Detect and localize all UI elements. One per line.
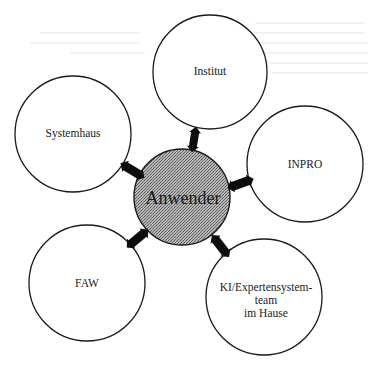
node-systemhaus: Systemhaus — [15, 76, 131, 192]
node-institut: Institut — [153, 15, 267, 129]
center-node-anwender: Anwender — [134, 149, 230, 245]
hub-spoke-diagram: Institut Systemhaus INPRO FAW KI/Experte… — [0, 0, 372, 370]
node-label-inpro: INPRO — [288, 158, 323, 170]
node-label-faw: FAW — [75, 277, 99, 289]
center-label: Anwender — [146, 188, 221, 208]
node-label-ki-line2: team — [255, 294, 277, 306]
node-label-institut: Institut — [194, 65, 227, 77]
node-inpro: INPRO — [247, 106, 363, 222]
node-label-ki-line1: KI/Expertensystem- — [220, 281, 313, 294]
node-label-ki-line3: im Hause — [244, 307, 288, 319]
node-label-systemhaus: Systemhaus — [46, 127, 101, 140]
